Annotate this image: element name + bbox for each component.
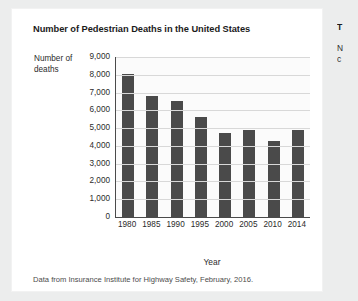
figure-title: Number of Pedestrian Deaths in the Unite… xyxy=(33,24,250,34)
y-axis-label: Number of deaths xyxy=(34,54,90,75)
bar-slot xyxy=(286,57,310,217)
y-axis-tick-label: 2,000 xyxy=(90,177,111,185)
gridline xyxy=(116,110,310,111)
bar xyxy=(243,130,255,217)
bar-slot xyxy=(262,57,286,217)
y-axis-tick-label: 7,000 xyxy=(90,89,111,97)
adjacent-text-column: T N c xyxy=(337,22,358,65)
x-axis-tick-row: 19801985199019952000200520102014 xyxy=(115,220,309,229)
y-axis-tick-label: 9,000 xyxy=(90,53,111,61)
gridline xyxy=(116,57,310,58)
adjacent-line-1: N xyxy=(337,43,358,54)
y-axis-tick-label: 5,000 xyxy=(90,124,111,132)
gridline xyxy=(116,181,310,182)
y-axis-tick-label: 3,000 xyxy=(90,160,111,168)
gridline xyxy=(116,164,310,165)
y-axis-tick-label: 8,000 xyxy=(90,71,111,79)
x-axis-tick-label: 1985 xyxy=(139,220,163,229)
plot-wrapper: 9,0008,0007,0006,0005,0004,0003,0002,000… xyxy=(83,57,309,229)
gridline xyxy=(116,93,310,94)
x-axis-tick-label: 2000 xyxy=(212,220,236,229)
gridline xyxy=(116,75,310,76)
bar-slot xyxy=(213,57,237,217)
adjacent-line-2: c xyxy=(337,54,358,65)
adjacent-heading: T xyxy=(337,22,358,32)
plot-area xyxy=(115,57,310,218)
bar-slot xyxy=(237,57,261,217)
y-axis-tick-label: 1,000 xyxy=(90,195,111,203)
bar-slot xyxy=(116,57,140,217)
bar-slot xyxy=(140,57,164,217)
bar xyxy=(195,117,207,217)
x-axis-label: Year xyxy=(115,257,309,267)
figure-card: Number of Pedestrian Deaths in the Unite… xyxy=(12,9,322,291)
gridline xyxy=(116,146,310,147)
bar xyxy=(268,141,280,217)
y-axis-tick-label: 0 xyxy=(105,213,110,221)
bar-series xyxy=(116,57,310,217)
x-axis-tick-label: 1990 xyxy=(164,220,188,229)
x-axis-tick-label: 2010 xyxy=(261,220,285,229)
figure-root: Number of Pedestrian Deaths in the Unite… xyxy=(0,0,358,301)
source-note: Data from Insurance Institute for Highwa… xyxy=(33,275,253,284)
gridline xyxy=(116,199,310,200)
x-axis-tick-label: 2005 xyxy=(236,220,260,229)
x-axis-tick-label: 1980 xyxy=(115,220,139,229)
gridline xyxy=(116,128,310,129)
x-axis-tick-label: 2014 xyxy=(285,220,309,229)
bar xyxy=(292,130,304,217)
bar-slot xyxy=(189,57,213,217)
y-axis-tick-column: 9,0008,0007,0006,0005,0004,0003,0002,000… xyxy=(83,57,113,229)
adjacent-body: N c xyxy=(337,43,358,65)
y-axis-tick-label: 4,000 xyxy=(90,142,111,150)
x-axis-tick-label: 1995 xyxy=(188,220,212,229)
y-axis-tick-label: 6,000 xyxy=(90,106,111,114)
bar-slot xyxy=(165,57,189,217)
